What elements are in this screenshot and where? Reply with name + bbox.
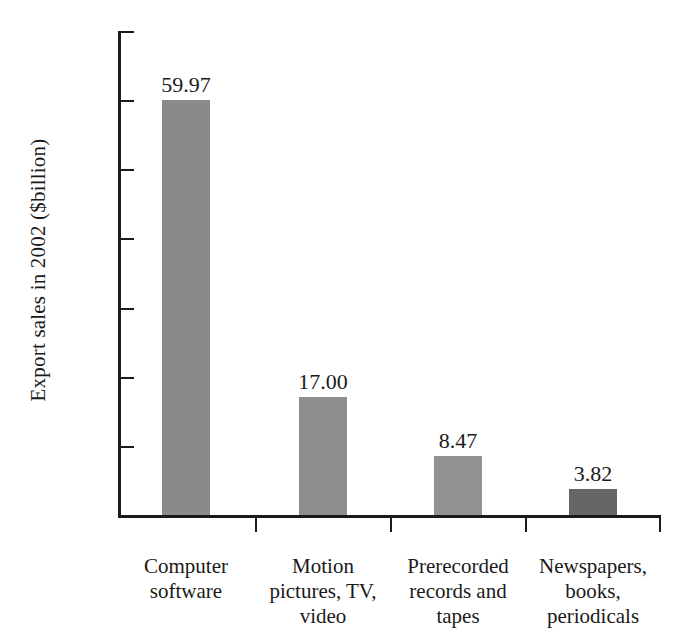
bar-2[interactable]: 8.47 [434,456,482,515]
category-label-0: Computer software [118,554,254,604]
bar-0[interactable]: 59.97 [162,100,210,515]
bar-value-label-3: 3.82 [574,462,613,486]
y-tick-50 [120,169,134,171]
y-tick-10 [120,446,134,448]
category-label-3: Newspapers, books, periodicals [525,554,661,629]
x-separator-0 [255,518,257,532]
y-tick-70 [120,31,134,33]
bar-chart: Export sales in 2002 ($billion) $7060504… [0,0,676,629]
y-tick-30 [120,308,134,310]
category-label-2: Prerecorded records and tapes [390,554,526,629]
y-tick-20 [120,377,134,379]
bar-value-label-0: 59.97 [161,73,211,97]
x-separator-1 [390,518,392,532]
bar-value-label-2: 8.47 [439,429,478,453]
y-axis-title: Export sales in 2002 ($billion) [18,10,58,530]
bar-3[interactable]: 3.82 [569,489,617,515]
x-separator-3 [659,518,661,532]
bar-1[interactable]: 17.00 [299,397,347,515]
x-separator-2 [525,518,527,532]
y-tick-60 [120,100,134,102]
bar-value-label-1: 17.00 [298,370,348,394]
plot-area: $70605040302010 59.9717.008.473.82 Compu… [118,31,661,518]
y-tick-40 [120,238,134,240]
category-label-1: Motion pictures, TV, video [255,554,391,629]
